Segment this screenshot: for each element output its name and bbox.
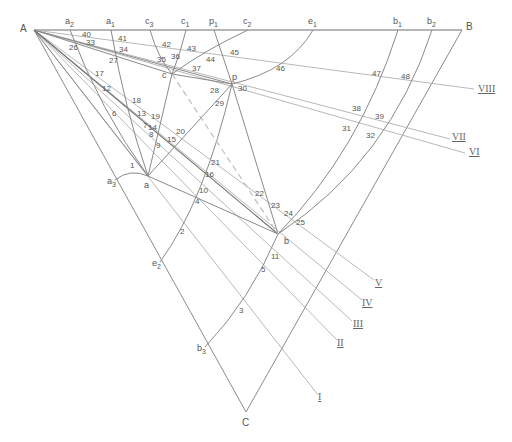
numbered-point-43: 43: [187, 44, 196, 53]
construction-diagram: ABCa2a1c3c1p1c2e1b1b2cpaba3e2b3123456789…: [0, 0, 512, 442]
numbered-point-34: 34: [119, 45, 128, 54]
numbered-point-36: 36: [171, 52, 180, 61]
top-point-label-c1: c1: [181, 16, 190, 28]
side-bc: [246, 30, 462, 412]
curve-e1-p: [232, 30, 313, 84]
inner-point-label-a: a: [144, 180, 149, 190]
numbered-point-48: 48: [401, 72, 410, 81]
ray-label-II: II: [337, 337, 344, 348]
vertex-label-b: B: [466, 21, 473, 32]
top-point-label-e1: e1: [308, 16, 317, 28]
ray-label-III: III: [353, 318, 363, 329]
ray-label-V: V: [375, 277, 383, 288]
curve-b1-b: [278, 30, 398, 234]
top-point-label-c2: c2: [243, 16, 252, 28]
numbered-point-20: 20: [176, 127, 185, 136]
numbered-point-31: 31: [342, 124, 351, 133]
numbered-point-14: 14: [148, 123, 157, 132]
numbered-point-15: 15: [167, 135, 176, 144]
top-point-label-b2: b2: [427, 16, 436, 28]
numbered-point-23: 23: [271, 201, 280, 210]
numbered-point-2: 2: [180, 227, 185, 236]
numbered-point-13: 13: [137, 109, 146, 118]
numbered-point-27: 27: [109, 56, 118, 65]
side-point-label-a3: a3: [107, 176, 116, 188]
numbered-point-5: 5: [261, 265, 266, 274]
numbered-point-24: 24: [284, 209, 293, 218]
diagram-canvas: ABCa2a1c3c1p1c2e1b1b2cpaba3e2b3123456789…: [0, 0, 512, 442]
numbered-point-25: 25: [296, 218, 305, 227]
ray-VI: [34, 30, 465, 153]
numbered-point-11: 11: [271, 252, 280, 261]
top-point-label-p1: p1: [209, 16, 218, 28]
numbered-point-28: 28: [210, 86, 219, 95]
curve-b2-b: [278, 30, 432, 234]
ray-label-IV: IV: [362, 297, 373, 308]
numbered-point-3: 3: [239, 306, 244, 315]
line-a-b: [148, 176, 278, 234]
numbered-point-41: 41: [118, 34, 127, 43]
numbered-point-22: 22: [255, 189, 264, 198]
numbered-point-47: 47: [372, 69, 381, 78]
curve-p1-p: [214, 30, 232, 84]
numbered-point-30: 30: [238, 84, 247, 93]
ray-label-I: I: [318, 391, 321, 402]
numbered-point-26: 26: [69, 43, 78, 52]
numbered-point-44: 44: [206, 55, 215, 64]
numbered-point-39: 39: [375, 112, 384, 121]
numbered-point-17: 17: [95, 69, 104, 78]
top-point-label-b1: b1: [393, 16, 402, 28]
line-a-to-point-b: [34, 30, 278, 234]
numbered-point-4: 4: [195, 197, 200, 206]
vertex-label-c: C: [242, 417, 249, 428]
numbered-point-18: 18: [132, 96, 141, 105]
curve-c3-c: [150, 30, 172, 74]
inner-point-label-p: p: [232, 72, 237, 82]
numbered-point-21: 21: [211, 158, 220, 167]
rays-from-a: [34, 30, 474, 395]
numbered-point-35: 35: [157, 55, 166, 64]
numbered-point-45: 45: [230, 48, 239, 57]
side-point-label-b3: b3: [197, 343, 206, 355]
numbered-point-38: 38: [352, 104, 361, 113]
inner-point-label-c: c: [162, 70, 167, 80]
line-a-to-point-a: [34, 30, 148, 176]
side-point-label-e2: e2: [152, 258, 161, 270]
numbered-point-12: 12: [102, 84, 111, 93]
numbered-point-29: 29: [215, 99, 224, 108]
ray-label-VI: VI: [469, 146, 480, 157]
numbered-point-10: 10: [199, 186, 208, 195]
vertex-label-a: A: [20, 23, 27, 34]
curve-a3-a: [115, 173, 148, 180]
numbered-point-42: 42: [162, 40, 171, 49]
ray-label-VIII: VIII: [478, 83, 495, 94]
top-point-label-a1: a1: [106, 16, 115, 28]
numbered-point-33: 33: [86, 38, 95, 47]
numbered-point-16: 16: [205, 170, 214, 179]
top-point-label-c3: c3: [145, 16, 154, 28]
top-point-label-a2: a2: [65, 16, 74, 28]
numbered-point-1: 1: [130, 161, 135, 170]
numbered-point-19: 19: [151, 112, 160, 121]
numbered-point-40: 40: [82, 30, 91, 39]
ray-label-VII: VII: [452, 131, 466, 142]
numbered-point-9: 9: [156, 141, 161, 150]
inner-point-label-b: b: [284, 236, 289, 246]
numbered-point-37: 37: [192, 64, 201, 73]
numbered-point-46: 46: [276, 64, 285, 73]
numbered-point-6: 6: [112, 109, 117, 118]
numbered-point-32: 32: [366, 131, 375, 140]
